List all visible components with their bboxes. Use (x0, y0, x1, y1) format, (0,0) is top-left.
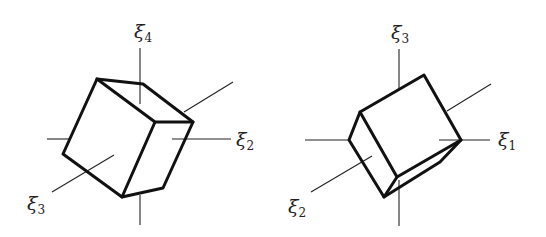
xi3-axis-lower (52, 155, 114, 192)
right-axes (305, 49, 491, 226)
left-cube-outline (63, 79, 193, 197)
xi3-axis-upper (184, 82, 233, 112)
right-cube-front-edges (360, 112, 461, 177)
left-cube-front-edge (122, 122, 155, 197)
label-xi3: ξ3 (27, 192, 45, 217)
right-labels: ξ3 ξ1 ξ2 (288, 21, 516, 220)
right-cube-edges (349, 75, 461, 197)
xi2-axis-upper (447, 84, 491, 111)
left-cube-edges (63, 79, 193, 197)
right-figure: ξ3 ξ1 ξ2 (288, 21, 516, 226)
cube-projection-diagram: ξ4 ξ2 ξ3 ξ3 ξ1 ξ2 (0, 0, 546, 237)
left-figure: ξ4 ξ2 ξ3 (27, 20, 254, 225)
label-xi3: ξ3 (391, 21, 409, 46)
label-xi4: ξ4 (134, 20, 152, 45)
left-labels: ξ4 ξ2 ξ3 (27, 20, 254, 217)
label-xi2: ξ2 (288, 195, 306, 220)
left-axes (47, 48, 233, 225)
label-xi1: ξ1 (498, 128, 516, 153)
right-cube-outline (349, 75, 461, 197)
label-xi2: ξ2 (236, 128, 254, 153)
